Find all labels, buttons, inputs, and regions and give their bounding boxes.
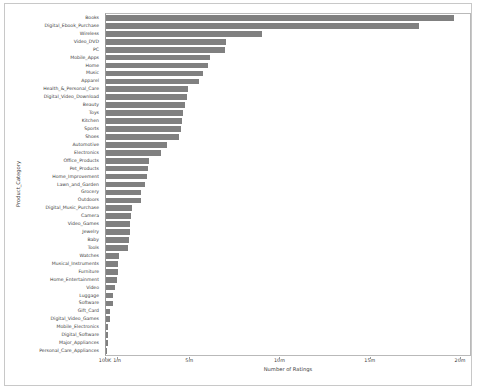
- y-tick-label: Digital_Video_Games: [51, 316, 99, 321]
- y-tick-label: Digital_Ebook_Purchase: [45, 22, 99, 27]
- x-tick-label: 5m: [185, 358, 193, 364]
- x-tick-label: 15m: [364, 358, 375, 364]
- bar: [106, 237, 129, 243]
- bar: [106, 253, 119, 259]
- bar: [106, 118, 182, 124]
- y-tick-label: Mobile_Electronics: [57, 324, 99, 329]
- bar: [106, 142, 167, 148]
- bar: [106, 47, 225, 53]
- bar: [106, 348, 107, 354]
- y-tick-label: Health_&_Personal_Care: [43, 86, 99, 91]
- y-axis-tick-labels: BooksDigital_Ebook_PurchaseWirelessVideo…: [5, 13, 103, 356]
- bar: [106, 182, 145, 188]
- y-tick-label: Music: [86, 70, 99, 75]
- bar: [106, 31, 262, 37]
- y-tick-label: Luggage: [79, 292, 99, 297]
- y-tick-label: Electronics: [74, 149, 99, 154]
- y-tick-label: Home_Entertainment: [50, 276, 99, 281]
- y-tick-label: Mobile_Apps: [70, 54, 99, 59]
- y-tick-label: Video: [86, 284, 99, 289]
- bar: [106, 221, 130, 227]
- bar: [106, 324, 108, 330]
- bar: [106, 174, 147, 180]
- x-tick-label: 1m: [113, 358, 121, 364]
- bar: [106, 134, 179, 140]
- y-tick-label: Kitchen: [82, 118, 99, 123]
- x-tick-label: 100K: [99, 358, 111, 364]
- x-tick-label: 10m: [274, 358, 285, 364]
- bar: [106, 340, 108, 346]
- x-tick-label: 20m: [455, 358, 466, 364]
- y-tick-label: Furniture: [78, 268, 99, 273]
- y-tick-label: Beauty: [83, 102, 99, 107]
- y-tick-label: Watches: [79, 252, 99, 257]
- plot-area: [105, 13, 471, 356]
- bar: [106, 190, 141, 196]
- bar: [106, 269, 118, 275]
- bar: [106, 198, 141, 204]
- y-tick-label: Major_Appliances: [59, 340, 99, 345]
- bar: [106, 102, 185, 108]
- bar: [106, 277, 117, 283]
- y-tick-label: PC: [93, 46, 99, 51]
- y-tick-label: Apparel: [81, 78, 99, 83]
- y-tick-label: Sports: [84, 125, 99, 130]
- bar: [106, 166, 148, 172]
- bar: [106, 71, 203, 77]
- bar: [106, 79, 199, 85]
- bar: [106, 213, 131, 219]
- bar: [106, 309, 110, 315]
- bar: [106, 301, 113, 307]
- bar: [106, 23, 419, 29]
- bar: [106, 15, 454, 21]
- y-tick-label: Home: [85, 62, 99, 67]
- y-tick-label: Books: [85, 14, 99, 19]
- figure-panel: Product_Category BooksDigital_Ebook_Purc…: [4, 3, 472, 386]
- bar: [106, 229, 130, 235]
- y-tick-label: Lawn_and_Garden: [57, 181, 99, 186]
- y-tick-label: Automotive: [72, 141, 99, 146]
- bar: [106, 285, 115, 291]
- bar: [106, 316, 110, 322]
- y-tick-label: Tools: [88, 244, 99, 249]
- bar: [106, 110, 183, 116]
- y-tick-label: Grocery: [81, 189, 99, 194]
- bar: [106, 126, 181, 132]
- y-tick-label: Gift_Card: [78, 308, 99, 313]
- y-tick-label: Musical_Instruments: [52, 260, 99, 265]
- y-tick-label: Digital_Video_Download: [44, 94, 99, 99]
- y-tick-label: Digital_Software: [62, 332, 99, 337]
- y-tick-label: Video_Games: [68, 221, 99, 226]
- bar: [106, 86, 188, 92]
- bar: [106, 39, 226, 45]
- bar: [106, 245, 128, 251]
- y-tick-label: Software: [79, 300, 99, 305]
- x-axis-title: Number of Ratings: [105, 366, 471, 372]
- y-tick-label: Pet_Products: [70, 165, 99, 170]
- bar: [106, 63, 208, 69]
- bar: [106, 332, 108, 338]
- y-tick-label: Camera: [81, 213, 99, 218]
- bar: [106, 55, 210, 61]
- y-tick-label: Video_DVD: [74, 38, 99, 43]
- y-tick-label: Personal_Care_Appliances: [39, 348, 99, 353]
- bar-series: [106, 14, 470, 355]
- y-tick-label: Shoes: [85, 133, 99, 138]
- bar: [106, 94, 187, 100]
- y-tick-label: Office_Products: [63, 157, 99, 162]
- y-tick-label: Baby: [87, 237, 99, 242]
- y-tick-label: Home_Improvement: [52, 173, 99, 178]
- bar: [106, 293, 113, 299]
- bar: [106, 150, 161, 156]
- bar: [106, 158, 149, 164]
- y-tick-label: Digital_Music_Purchase: [46, 205, 99, 210]
- bar: [106, 205, 132, 211]
- y-tick-label: Toys: [89, 110, 99, 115]
- bar: [106, 261, 118, 267]
- y-tick-label: Jewelry: [82, 229, 99, 234]
- y-tick-label: Outdoors: [78, 197, 99, 202]
- y-tick-label: Wireless: [80, 30, 99, 35]
